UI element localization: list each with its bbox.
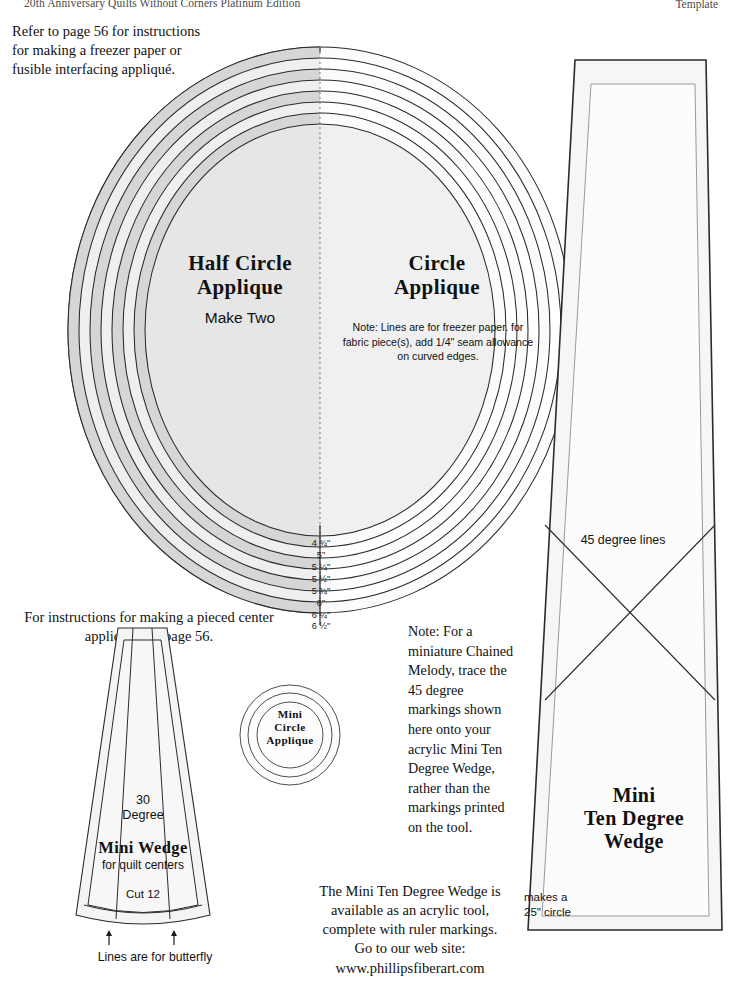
- acrylic-tool-footer-text: The Mini Ten Degree Wedge is available a…: [312, 882, 508, 978]
- makes-line2: 25" circle: [524, 905, 614, 920]
- tdw-title-line2: Ten Degree: [556, 807, 712, 830]
- forty-five-degree-lines-label: 45 degree lines: [562, 533, 684, 547]
- tdw-title-line3: Wedge: [556, 830, 712, 853]
- tdw-title-line1: Mini: [556, 784, 712, 807]
- template-page: 20th Anniversary Quilts Without Corners …: [0, 0, 732, 987]
- mini-ten-degree-wedge-title: Mini Ten Degree Wedge: [556, 784, 712, 854]
- makes-circle-label: makes a 25" circle: [524, 890, 614, 920]
- makes-line1: makes a: [524, 890, 614, 905]
